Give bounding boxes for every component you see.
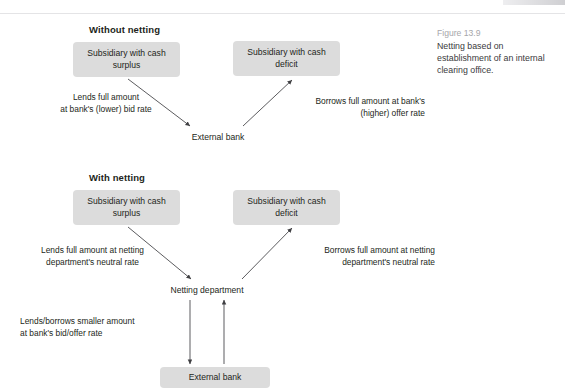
node-external-bank-bottom: External bank — [160, 367, 270, 388]
node-netting-department: Netting department — [155, 284, 259, 298]
figure-caption: Figure 13.9 Netting based on establishme… — [437, 27, 559, 77]
node-external-bank-top: External bank — [170, 131, 266, 145]
node-subsidiary-surplus-top: Subsidiary with cash surplus — [73, 42, 180, 77]
label-borrows-full-amount-offer-rate: Borrows full amount at bank's (higher) o… — [265, 96, 425, 119]
node-subsidiary-deficit-bottom: Subsidiary with cash deficit — [233, 190, 340, 225]
label-lends-full-amount-bid-rate: Lends full amount at bank's (lower) bid … — [45, 92, 167, 115]
label-borrows-netting-neutral-rate: Borrows full amount at netting departmen… — [265, 245, 435, 268]
label-lends-netting-neutral-rate: Lends full amount at netting department'… — [15, 245, 170, 268]
figure-caption-text: Netting based on establishment of an int… — [437, 40, 559, 77]
diagram-bottom-title: With netting — [89, 172, 145, 183]
label-lends-borrows-smaller-amount: Lends/borrows smaller amount at bank's b… — [20, 316, 178, 339]
figure-number: Figure 13.9 — [437, 27, 559, 39]
diagram-top-title: Without netting — [89, 24, 160, 35]
node-subsidiary-deficit-top: Subsidiary with cash deficit — [233, 41, 340, 76]
node-subsidiary-surplus-bottom: Subsidiary with cash surplus — [73, 190, 180, 225]
figure-page: Without netting Subsidiary with cash sur… — [0, 0, 565, 392]
